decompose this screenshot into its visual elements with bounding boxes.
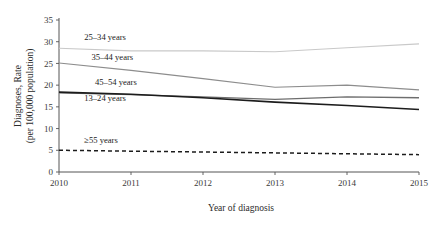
data-series-line	[59, 44, 419, 52]
series-label: 45–54 years	[95, 77, 137, 87]
y-tick-label: 30	[44, 37, 54, 47]
x-tick-label: 2013	[266, 178, 285, 188]
x-axis-ticks: 201020112012201320142015	[50, 172, 429, 188]
series-label: ≥55 years	[84, 135, 118, 145]
series-label: 13–24 years	[84, 93, 126, 103]
x-tick-label: 2011	[122, 178, 140, 188]
x-tick-label: 2012	[194, 178, 212, 188]
chart-figure: 05101520253035 201020112012201320142015 …	[0, 0, 429, 225]
series-label: 35–44 years	[91, 52, 133, 62]
y-axis-title-line1: Diagnoses, Rate	[13, 65, 23, 127]
x-tick-label: 2014	[338, 178, 357, 188]
x-tick-label: 2010	[50, 178, 69, 188]
y-axis-title-line2: (per 100,000 population)	[25, 49, 36, 144]
y-tick-label: 35	[44, 15, 54, 25]
y-tick-label: 0	[49, 167, 54, 177]
y-tick-label: 25	[44, 59, 54, 69]
y-axis-ticks: 05101520253035	[44, 15, 59, 177]
y-tick-label: 15	[44, 102, 54, 112]
x-axis-title: Year of diagnosis	[208, 203, 274, 213]
y-tick-label: 20	[44, 80, 54, 90]
x-tick-label: 2015	[410, 178, 429, 188]
series-label: 25–34 years	[84, 32, 126, 42]
line-chart-canvas: 05101520253035 201020112012201320142015 …	[0, 0, 429, 225]
y-tick-label: 10	[44, 124, 54, 134]
data-series-line	[59, 150, 419, 154]
y-tick-label: 5	[49, 145, 54, 155]
